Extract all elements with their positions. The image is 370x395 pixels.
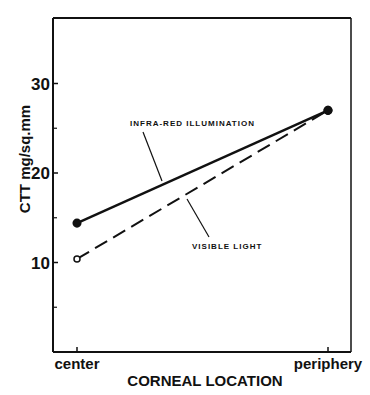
annotation-infra-red: INFRA-RED ILLUMINATION [130,119,255,128]
x-tick-label-periphery: periphery [294,355,363,372]
y-tick-label: 10 [31,254,50,273]
y-tick-label: 30 [31,75,50,94]
leader-line-visible-light [187,199,209,237]
x-tick-label-center: center [54,355,99,372]
x-axis-title: CORNEAL LOCATION [127,372,282,389]
y-tick-label: 20 [31,164,50,183]
annotation-visible-light: VISIBLE LIGHT [192,242,262,251]
data-point-visible-light-center [74,256,80,262]
leader-line-infra-red [143,132,162,181]
data-point-visible-light-periphery [324,107,332,115]
data-point-infra-red-center [73,219,81,227]
chart: 102030centerperiphery INFRA-RED ILLUMINA… [0,0,370,395]
y-axis-title: CTT mg/sq.mm [16,105,33,213]
series-line-visible-light [77,110,328,259]
